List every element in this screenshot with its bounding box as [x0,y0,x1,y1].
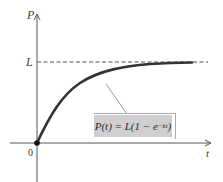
annotation-text: P(t) = L(1 − e [95,120,158,132]
x-axis-label: t [206,148,209,159]
annotation-exponent: −kt [158,122,168,130]
origin-label: 0 [28,148,33,158]
y-axis-label: P [27,9,34,21]
annotation-text-end: ) [168,120,172,132]
annotation-pointer [106,84,127,114]
origin-point [34,140,40,146]
function-annotation: P(t) = L(1 − e−kt) [94,115,172,137]
logistic-growth-graph [0,0,223,182]
asymptote-label: L [26,56,33,68]
